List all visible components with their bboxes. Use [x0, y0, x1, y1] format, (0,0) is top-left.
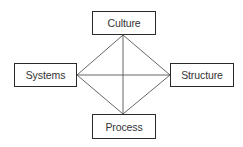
node-systems: Systems: [14, 63, 77, 87]
edge-culture-systems: [77, 35, 123, 75]
node-label: Culture: [107, 17, 140, 29]
node-label: Process: [105, 121, 142, 133]
edge-systems-process: [77, 75, 123, 114]
node-structure: Structure: [170, 63, 234, 87]
node-label: Systems: [26, 69, 66, 81]
edge-culture-structure: [123, 35, 170, 75]
node-label: Structure: [181, 69, 223, 81]
node-culture: Culture: [92, 11, 156, 35]
relationship-diagram: Culture Systems Structure Process: [0, 0, 243, 147]
edge-structure-process: [123, 75, 170, 114]
node-process: Process: [92, 114, 156, 139]
